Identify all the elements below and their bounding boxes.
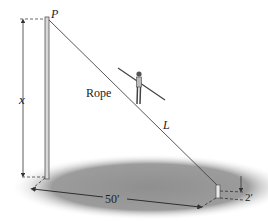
tightrope-diagram: x P Rope L 2′ 50′ [0,0,268,223]
height-label: x [18,92,25,107]
distance-label: 50′ [105,192,120,206]
rope-label: Rope [86,86,111,100]
rope-length-label: L [162,118,170,132]
point-p-label: P [50,7,59,21]
tightrope-walker-icon [118,68,165,104]
post-height-label: 2′ [245,191,253,203]
short-post [216,185,220,198]
tall-pole [45,17,49,179]
